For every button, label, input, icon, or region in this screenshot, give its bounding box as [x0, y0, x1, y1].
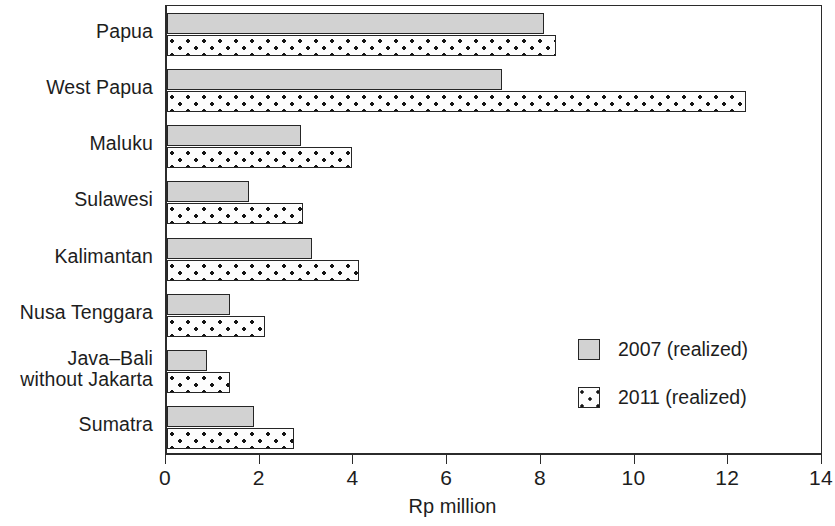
- x-axis-tick: [821, 455, 822, 464]
- x-axis-tick: [540, 455, 541, 464]
- x-axis-tick: [634, 455, 635, 464]
- category-label: Kalimantan: [54, 246, 153, 267]
- x-axis-tick-label: 4: [346, 466, 358, 490]
- category-axis-labels: PapuaWest PapuaMalukuSulawesiKalimantanN…: [0, 0, 835, 526]
- x-axis-tick: [352, 455, 353, 464]
- x-axis-tick: [446, 455, 447, 464]
- legend-item-2007: 2007 (realized): [578, 325, 748, 373]
- chart-legend: 2007 (realized) 2011 (realized): [578, 325, 748, 421]
- x-axis-tick-label: 10: [622, 466, 646, 490]
- chart-figure: PapuaWest PapuaMalukuSulawesiKalimantanN…: [0, 0, 835, 526]
- category-label: West Papua: [46, 77, 153, 98]
- category-label: Java–Bali without Jakarta: [20, 348, 153, 390]
- x-axis-tick-label: 2: [253, 466, 265, 490]
- legend-label-2007: 2007 (realized): [618, 338, 748, 361]
- category-label: Sulawesi: [74, 189, 153, 210]
- x-axis-tick: [727, 455, 728, 464]
- x-axis-tick-label: 14: [809, 466, 833, 490]
- category-label: Nusa Tenggara: [20, 302, 153, 323]
- category-label: Papua: [96, 21, 153, 42]
- legend-swatch-2011: [578, 387, 600, 408]
- x-axis-tick-label: 8: [534, 466, 546, 490]
- legend-swatch-2007: [578, 339, 600, 360]
- x-axis-title: Rp million: [0, 495, 835, 518]
- x-axis-tick: [259, 455, 260, 464]
- category-label: Sumatra: [79, 414, 153, 435]
- x-axis-tick-label: 6: [440, 466, 452, 490]
- legend-label-2011: 2011 (realized): [618, 386, 747, 409]
- x-axis-tick: [165, 455, 166, 464]
- x-axis-tick-label: 0: [159, 466, 171, 490]
- x-axis-tick-label: 12: [715, 466, 739, 490]
- category-label: Maluku: [90, 133, 153, 154]
- legend-item-2011: 2011 (realized): [578, 373, 748, 421]
